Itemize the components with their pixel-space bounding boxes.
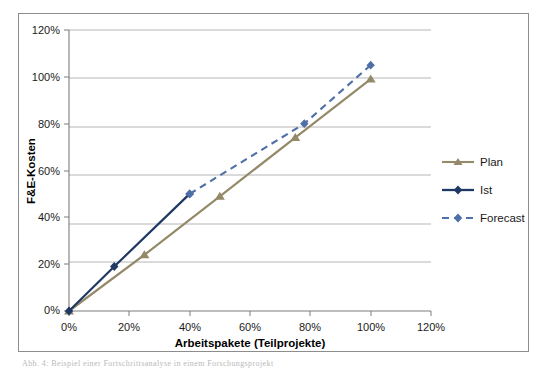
x-tick-label-40: 40% xyxy=(179,321,201,333)
series-line xyxy=(69,194,190,311)
x-tick-label-120: 120% xyxy=(417,321,445,333)
legend-label-forecast: Forecast xyxy=(480,212,526,224)
legend-item-ist[interactable]: Ist xyxy=(442,184,493,196)
diamond-marker-icon xyxy=(454,214,463,223)
y-axis-title: F&E-Kosten xyxy=(25,138,37,204)
x-tick-label-60: 60% xyxy=(239,321,261,333)
y-tick-label-40: 40% xyxy=(38,211,60,223)
series-forecast xyxy=(185,61,374,199)
legend-item-forecast[interactable]: Forecast xyxy=(442,212,526,224)
legend-label-ist: Ist xyxy=(480,184,493,196)
x-tick-label-20: 20% xyxy=(118,321,140,333)
x-axis-ticks xyxy=(69,311,431,316)
legend-label-plan: Plan xyxy=(480,156,503,168)
y-tick-label-80: 80% xyxy=(38,118,60,130)
y-axis-ticks xyxy=(64,30,69,311)
triangle-marker-icon xyxy=(366,75,376,83)
y-tick-label-0: 0% xyxy=(44,304,60,316)
chart-legend: Plan Ist Forecast xyxy=(442,156,526,224)
legend-item-plan[interactable]: Plan xyxy=(442,156,503,168)
y-tick-label-120: 120% xyxy=(32,24,60,36)
x-tick-label-80: 80% xyxy=(299,321,321,333)
y-tick-label-100: 100% xyxy=(32,71,60,83)
series-plan xyxy=(64,75,376,315)
y-tick-label-20: 20% xyxy=(38,258,60,270)
gridlines xyxy=(69,30,431,262)
series-layer xyxy=(64,61,376,316)
x-tick-label-0: 0% xyxy=(61,321,77,333)
series-ist xyxy=(65,190,194,316)
chart-plot-area: 0% 20% 40% 60% 80% 100% 120% 0% 20% 40% … xyxy=(19,14,528,351)
y-tick-label-60: 60% xyxy=(38,165,60,177)
x-tick-label-100: 100% xyxy=(357,321,385,333)
x-axis-title: Arbeitspakete (Teilprojekte) xyxy=(175,337,326,349)
diamond-marker-icon xyxy=(454,186,463,195)
line-chart-svg: 0% 20% 40% 60% 80% 100% 120% 0% 20% 40% … xyxy=(19,14,528,351)
chart-figure: 0% 20% 40% 60% 80% 100% 120% 0% 20% 40% … xyxy=(18,13,529,352)
figure-caption: Abb. 4: Beispiel einer Fortschrittsanaly… xyxy=(22,359,522,372)
